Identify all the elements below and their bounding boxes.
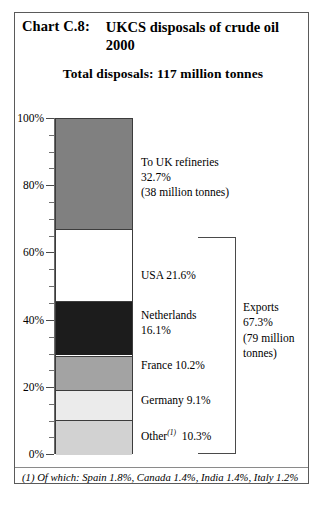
label-other-name: Other	[141, 430, 167, 442]
y-tick-minor-15	[49, 404, 54, 405]
y-tick-minor-30	[49, 354, 54, 355]
y-tick-label-100: 100%	[0, 112, 44, 124]
exports-bracket-spine	[235, 237, 236, 454]
bar-segment-uk-refineries	[56, 119, 132, 229]
label-usa: USA 21.6%	[141, 268, 196, 283]
y-tick-minor-90	[49, 152, 54, 153]
plot-area: 100% 80% 60% 40% 20% 0% To UK refineries…	[0, 0, 323, 508]
label-other-footnote-marker: (1)	[167, 428, 176, 437]
y-tick-minor-85	[49, 168, 54, 169]
y-tick-major-60	[46, 252, 54, 253]
y-tick-minor-95	[49, 135, 54, 136]
label-france: France 10.2%	[141, 358, 205, 373]
y-tick-minor-45	[49, 303, 54, 304]
y-tick-minor-70	[49, 219, 54, 220]
bar-segment-other	[56, 420, 132, 455]
y-tick-minor-50	[49, 286, 54, 287]
y-tick-major-0	[46, 454, 54, 455]
bar-divider-france-germany	[56, 390, 132, 391]
y-tick-label-0: 0%	[0, 448, 44, 460]
y-tick-major-100	[46, 118, 54, 119]
y-tick-major-20	[46, 387, 54, 388]
y-tick-minor-35	[49, 337, 54, 338]
y-tick-major-80	[46, 185, 54, 186]
y-tick-label-60: 60%	[0, 246, 44, 258]
bar-segment-germany	[56, 390, 132, 421]
bar-segment-france	[56, 356, 132, 390]
y-tick-label-40: 40%	[0, 314, 44, 326]
y-tick-major-40	[46, 320, 54, 321]
label-netherlands: Netherlands 16.1%	[141, 308, 197, 338]
bar-divider-usa-netherlands	[56, 301, 132, 302]
y-tick-minor-65	[49, 236, 54, 237]
y-tick-minor-75	[49, 202, 54, 203]
y-tick-label-20: 20%	[0, 381, 44, 393]
y-tick-minor-55	[49, 269, 54, 270]
footnote-divider	[15, 467, 308, 468]
exports-bracket-bottom-arm	[198, 453, 236, 454]
bar-segment-netherlands	[56, 301, 132, 355]
bar-segment-usa	[56, 229, 132, 302]
y-tick-minor-5	[49, 437, 54, 438]
label-exports: Exports 67.3% (79 million tonnes)	[243, 300, 305, 362]
stacked-bar	[55, 118, 133, 454]
bar-divider-netherlands-france	[56, 356, 132, 357]
label-uk-refineries: To UK refineries 32.7% (38 million tonne…	[141, 155, 246, 201]
footnote-text: (1) Of which: Spain 1.8%, Canada 1.4%, I…	[22, 471, 307, 485]
bar-divider-uk-usa	[56, 229, 132, 230]
exports-bracket	[198, 237, 236, 454]
y-tick-label-80: 80%	[0, 179, 44, 191]
bar-divider-germany-other	[56, 420, 132, 421]
y-tick-minor-10	[49, 421, 54, 422]
chart-figure: Chart C.8: UKCS disposals of crude oil 2…	[0, 0, 323, 508]
y-tick-minor-25	[49, 370, 54, 371]
exports-bracket-top-arm	[198, 237, 236, 238]
